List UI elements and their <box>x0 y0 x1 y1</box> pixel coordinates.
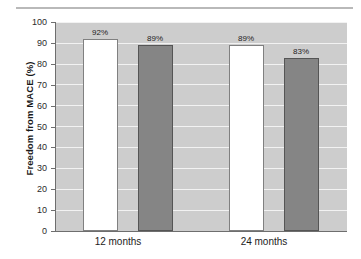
y-tick-label-10: 10 <box>7 206 47 215</box>
gridline-100 <box>55 22 347 23</box>
bar-12-months-series-2[interactable] <box>138 45 173 231</box>
y-tick-label-100: 100 <box>7 18 47 27</box>
y-tick-label-80: 80 <box>7 60 47 69</box>
y-tick-40 <box>51 147 56 148</box>
y-tick-label-0: 0 <box>7 227 47 236</box>
y-tick-label-40: 40 <box>7 143 47 152</box>
y-tick-10 <box>51 210 56 211</box>
top-divider-rule <box>16 7 353 9</box>
bar-value-24-months-series-1: 89% <box>223 35 269 43</box>
y-tick-label-30: 30 <box>7 164 47 173</box>
x-axis-line <box>55 231 347 232</box>
y-tick-label-50: 50 <box>7 123 47 132</box>
bar-12-months-series-1[interactable] <box>83 39 118 231</box>
y-tick-0 <box>51 231 56 232</box>
y-tick-100 <box>51 22 56 23</box>
bar-24-months-series-1[interactable] <box>229 45 264 231</box>
bar-24-months-series-2[interactable] <box>284 58 319 232</box>
bar-value-24-months-series-2: 83% <box>278 48 324 56</box>
y-tick-20 <box>51 189 56 190</box>
y-tick-30 <box>51 168 56 169</box>
y-tick-60 <box>51 106 56 107</box>
y-tick-label-90: 90 <box>7 39 47 48</box>
x-category-label-24-months: 24 months <box>209 236 319 247</box>
y-tick-label-70: 70 <box>7 81 47 90</box>
y-tick-70 <box>51 85 56 86</box>
bar-value-12-months-series-2: 89% <box>132 35 178 43</box>
bar-value-12-months-series-1: 92% <box>77 29 123 37</box>
y-tick-80 <box>51 64 56 65</box>
y-tick-label-60: 60 <box>7 102 47 111</box>
x-category-label-12-months: 12 months <box>63 236 173 247</box>
y-tick-label-20: 20 <box>7 185 47 194</box>
bar-chart-figure: Freedom from MACE (%) 100 90 80 70 60 50… <box>0 0 361 259</box>
y-tick-50 <box>51 127 56 128</box>
y-tick-90 <box>51 43 56 44</box>
